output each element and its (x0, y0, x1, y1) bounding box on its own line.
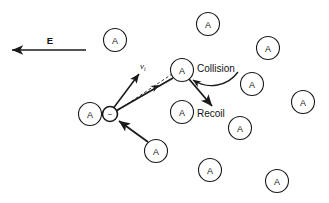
atom-recoil: A (171, 101, 194, 124)
atom-far-right: A (292, 91, 315, 114)
atom-bottom-center: A (199, 159, 222, 182)
atom-mid-right: A (241, 73, 264, 96)
atom-collision: A (171, 59, 194, 82)
atoms-layer: AAAAAAAAAAAA (79, 13, 315, 193)
diagram-svg: E vi AAAAAAAAAAAA − Collisi (0, 0, 329, 203)
atom-label: A (179, 66, 185, 76)
atom-top-right: A (257, 37, 280, 60)
atom-label: A (205, 20, 211, 30)
atom-upper-left: A (104, 29, 127, 52)
atom-label: A (300, 98, 306, 108)
atom-label: A (249, 80, 255, 90)
atom-top-center: A (197, 13, 220, 36)
recoil-arrow (189, 79, 212, 106)
electron-charge-sign: − (108, 110, 113, 119)
atom-label: A (87, 110, 93, 120)
atom-right-lower: A (229, 117, 252, 140)
velocity-subscript: i (144, 66, 146, 72)
incoming-electron-arrow (119, 121, 148, 142)
collision-text: Collision (197, 63, 235, 74)
text-labels-layer: CollisionRecoil (197, 63, 235, 119)
atom-electron-host: A (79, 103, 102, 126)
electric-field-label: E (47, 35, 53, 46)
atom-label: A (153, 147, 159, 157)
atom-label: A (274, 177, 280, 187)
atom-label: A (265, 44, 271, 54)
atom-label: A (207, 166, 213, 176)
collision-callout-curve (193, 72, 238, 86)
atom-label: A (179, 108, 185, 118)
recoil-text: Recoil (197, 108, 225, 119)
atom-label: A (112, 36, 118, 46)
atom-bottom-right: A (266, 170, 289, 193)
initial-velocity-label: vi (140, 61, 146, 72)
atom-bottom-left: A (145, 140, 168, 163)
atom-label: A (237, 124, 243, 134)
physics-diagram-canvas: E vi AAAAAAAAAAAA − Collisi (0, 0, 329, 203)
electron-particle: − (103, 107, 118, 122)
electric-field-group: E (12, 35, 86, 51)
